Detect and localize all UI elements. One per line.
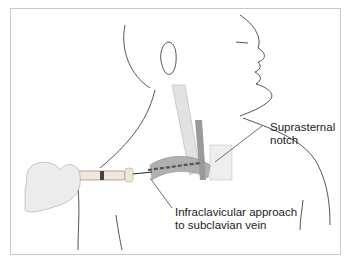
ear-outline	[161, 42, 176, 74]
left-neck-outline	[100, 90, 155, 168]
label-line: to subclavian vein	[175, 219, 297, 232]
label-line: Suprasternal	[270, 121, 335, 134]
left-torso-line	[78, 188, 79, 250]
hand	[25, 162, 80, 212]
face-profile	[240, 15, 272, 116]
label-line: Infraclavicular approach	[175, 206, 297, 219]
trachea	[210, 145, 232, 180]
approach-leader	[150, 178, 172, 208]
suprasternal-leader	[215, 126, 262, 162]
head-back-outline	[124, 25, 150, 88]
label-line: notch	[270, 134, 335, 147]
infraclavicular-approach-label: Infraclavicular approach to subclavian v…	[175, 206, 297, 232]
eye-outline	[236, 42, 248, 43]
suprasternal-notch-label: Suprasternal notch	[270, 121, 335, 147]
